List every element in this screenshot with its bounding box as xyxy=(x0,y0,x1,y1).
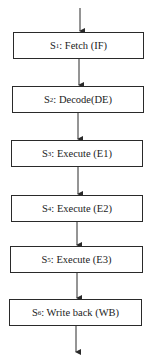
stage-label: : Write back (WB) xyxy=(41,307,119,318)
stage-execute-e2: S4: Execute (E2) xyxy=(11,195,143,222)
stage-label: : Execute (E1) xyxy=(51,148,112,159)
stage-fetch: S1: Fetch (IF) xyxy=(13,32,144,59)
stage-label: : Fetch (IF) xyxy=(59,40,107,51)
stage-decode: S2: Decode(DE) xyxy=(12,86,144,113)
stage-write-back: S6: Write back (WB) xyxy=(9,299,142,326)
stage-execute-e1: S3: Execute (E1) xyxy=(11,140,143,167)
stage-label: : Execute (E2) xyxy=(51,203,112,214)
stage-label: : Decode(DE) xyxy=(53,94,112,105)
stage-label: : Execute (E3) xyxy=(51,254,112,265)
stage-execute-e3: S5: Execute (E3) xyxy=(10,246,143,273)
